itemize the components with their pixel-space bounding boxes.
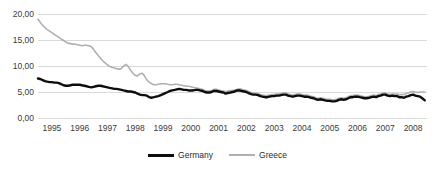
- gridline: [38, 118, 427, 119]
- x-axis-tick-label: 2004: [292, 123, 311, 133]
- y-axis-tick-label: 5,00: [0, 88, 34, 97]
- legend-label-greece: Greece: [259, 150, 287, 160]
- series-line-greece: [38, 19, 425, 100]
- x-axis-tick-label: 1995: [42, 123, 61, 133]
- x-axis-tick-label: 1996: [70, 123, 89, 133]
- x-axis-tick-label: 1998: [126, 123, 145, 133]
- legend-item-greece: Greece: [229, 150, 287, 160]
- x-axis-tick-label: 1999: [154, 123, 173, 133]
- x-axis-tick-label: 2002: [237, 123, 256, 133]
- y-axis-tick-label: 10,00: [0, 62, 34, 71]
- plot-area: [38, 14, 427, 118]
- y-axis-tick-label: 20,00: [0, 10, 34, 19]
- x-axis-tick-label: 2000: [181, 123, 200, 133]
- line-chart: 0,005,0010,0015,0020,00 1995199619971998…: [0, 0, 435, 173]
- legend-swatch-germany: [148, 154, 174, 157]
- y-axis-tick-label: 15,00: [0, 36, 34, 45]
- x-axis-tick-label: 2008: [404, 123, 423, 133]
- x-axis-tick-label: 2005: [320, 123, 339, 133]
- x-axis-tick-label: 1997: [98, 123, 117, 133]
- y-axis-tick-label: 0,00: [0, 114, 34, 123]
- chart-legend: Germany Greece: [0, 150, 435, 160]
- legend-swatch-greece: [229, 154, 255, 156]
- series-layer: [38, 14, 427, 118]
- x-axis-tick-label: 2007: [376, 123, 395, 133]
- x-axis-tick-label: 2001: [209, 123, 228, 133]
- legend-item-germany: Germany: [148, 150, 213, 160]
- y-axis: 0,005,0010,0015,0020,00: [0, 0, 34, 132]
- x-axis-tick-label: 2006: [348, 123, 367, 133]
- x-axis-tick-label: 2003: [265, 123, 284, 133]
- legend-label-germany: Germany: [178, 150, 213, 160]
- x-axis: 1995199619971998199920002001200220032004…: [38, 123, 427, 137]
